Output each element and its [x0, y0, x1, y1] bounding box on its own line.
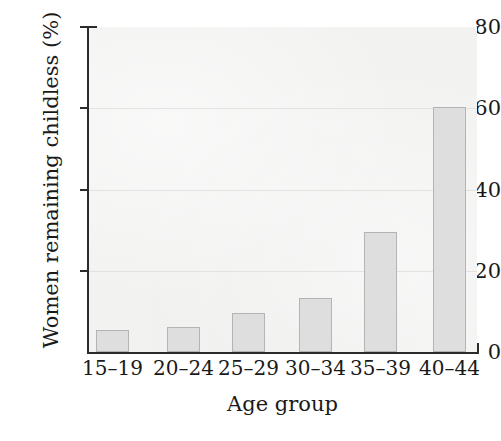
gridline-40 — [88, 190, 477, 191]
y-tick-mark-40 — [80, 189, 89, 191]
x-tick-label-40-44: 40–44 — [417, 356, 482, 380]
y-tick-mark-80 — [80, 26, 89, 28]
bar-15-19 — [96, 330, 129, 352]
x-tick-label-20-24: 20–24 — [151, 356, 216, 380]
y-tick-mark-20 — [80, 270, 89, 272]
x-tick-label-35-39: 35–39 — [348, 356, 413, 380]
x-axis-title: Age group — [88, 392, 477, 416]
bar-25-29 — [232, 313, 265, 352]
y-tick-mark-60 — [80, 107, 89, 109]
bar-30-34 — [299, 298, 332, 352]
x-tick-label-15-19: 15–19 — [80, 356, 145, 380]
y-axis-top-cap — [88, 26, 97, 28]
x-tick-label-30-34: 30–34 — [283, 356, 348, 380]
bar-35-39 — [364, 232, 397, 352]
y-axis-title: Women remaining childless (%) — [34, 0, 68, 360]
gridline-20 — [88, 271, 477, 272]
x-tick-label-25-29: 25–29 — [216, 356, 281, 380]
x-axis-right-cap — [477, 343, 479, 353]
bar-20-24 — [167, 327, 200, 352]
bar-chart-figure: Women remaining childless (%) 80 60 40 2… — [0, 0, 501, 441]
bar-40-44 — [433, 107, 466, 352]
gridline-60 — [88, 108, 477, 109]
x-axis-spine — [87, 352, 479, 354]
